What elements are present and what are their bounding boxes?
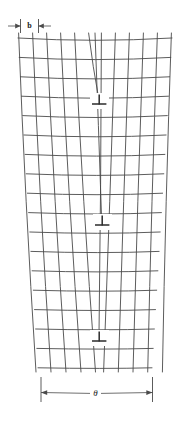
lattice-column	[33, 33, 51, 372]
lattice-row	[30, 232, 160, 233]
lattice-row	[29, 213, 162, 214]
lattice-row	[27, 193, 162, 195]
tilt-angle-dimension: θ	[41, 377, 153, 402]
lattice-row	[32, 271, 158, 272]
lattice-column	[61, 33, 81, 372]
tilt-arrowhead-left	[41, 390, 47, 395]
lattice-row	[37, 348, 153, 349]
edge-dislocation-2	[93, 214, 112, 230]
lattice-vertical-lines-left	[19, 33, 96, 372]
lattice-row	[23, 116, 168, 118]
lattice-column	[104, 33, 116, 372]
lattice-column	[118, 33, 129, 372]
burgers-arrowhead-left	[15, 24, 20, 29]
lattice-row	[25, 154, 165, 156]
lattice-column	[162, 33, 171, 372]
tilt-angle-label: θ	[93, 388, 98, 398]
lattice-column	[148, 33, 158, 372]
burgers-vector-dimension: b	[8, 19, 51, 33]
burgers-vector-label: b	[27, 21, 32, 30]
tilt-dim-line-right	[101, 393, 153, 394]
burgers-arrowhead-right	[39, 24, 44, 29]
tilt-arrowhead-right	[146, 390, 152, 395]
lattice-row	[31, 251, 159, 252]
lattice-column	[19, 33, 36, 372]
figure-root: b	[0, 0, 189, 425]
tilt-dim-line-left	[41, 393, 90, 394]
lattice-row	[35, 310, 156, 311]
lattice-row	[33, 290, 156, 291]
lattice-column	[133, 33, 143, 372]
lattice-row	[36, 329, 155, 330]
edge-dislocation-3	[90, 330, 109, 346]
extra-half-plane-3	[99, 33, 101, 335]
lattice-row	[24, 135, 166, 137]
tilt-boundary-diagram: b	[0, 0, 189, 425]
lattice-row	[19, 57, 171, 59]
edge-dislocation-1	[90, 93, 109, 109]
lattice-row	[26, 174, 164, 176]
lattice-extra-half-planes	[89, 33, 102, 335]
lattice-vertical-lines-right	[104, 33, 172, 372]
